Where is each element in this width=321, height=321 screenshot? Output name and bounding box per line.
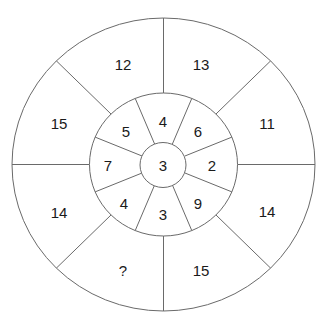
outer-number-bottom-right: 15 [193, 262, 210, 279]
outer-number-left-bottom: 14 [51, 204, 68, 221]
inner-number-bottom: 3 [159, 206, 167, 223]
outer-number-right-top: 11 [259, 115, 275, 132]
outer-number-top-right: 13 [193, 56, 210, 73]
inner-number-top-right: 6 [194, 123, 202, 140]
center-number: 3 [159, 157, 167, 174]
outer-number-right-bottom: 14 [259, 203, 276, 220]
outer-number-left-top: 15 [51, 115, 68, 132]
inner-number-top: 4 [159, 113, 167, 130]
outer-number-top-left: 12 [115, 56, 132, 73]
inner-number-bottom-right: 9 [194, 195, 202, 212]
inner-number-bottom-left: 4 [120, 195, 128, 212]
number-wheel-puzzle: 3 4 6 2 9 3 4 7 5 13 11 14 15 ? 14 15 12 [0, 0, 321, 321]
missing-number-question-mark: ? [119, 262, 127, 279]
inner-number-top-left: 5 [122, 123, 130, 140]
inner-number-right: 2 [208, 157, 216, 174]
inner-number-left: 7 [104, 157, 112, 174]
